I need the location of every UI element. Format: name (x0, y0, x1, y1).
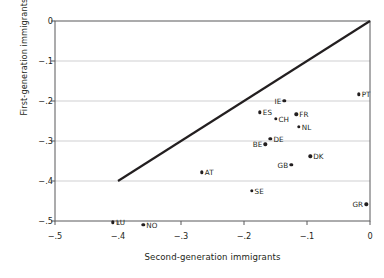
data-point[interactable] (283, 99, 286, 102)
data-point-label: LU (116, 218, 125, 227)
data-point[interactable] (365, 202, 368, 205)
data-point-label: GB (278, 161, 289, 170)
data-point-label: GR (352, 200, 363, 209)
data-point-label: SE (255, 187, 264, 196)
data-point[interactable] (295, 112, 298, 115)
data-point[interactable] (274, 117, 277, 120)
data-point[interactable] (357, 92, 360, 95)
data-point[interactable] (200, 170, 203, 173)
x-axis-title: Second-generation immigrants (55, 252, 370, 262)
data-point[interactable] (269, 137, 272, 140)
data-point[interactable] (258, 110, 261, 113)
data-point[interactable] (250, 189, 253, 192)
data-point-label: BE (253, 140, 263, 149)
data-point-label: AT (205, 168, 214, 177)
data-point-label: DE (273, 135, 283, 144)
y-axis-title: First-generation immigrants (19, 0, 29, 137)
data-point[interactable] (308, 154, 311, 157)
data-point-label: ES (263, 108, 272, 117)
data-point[interactable] (264, 142, 267, 145)
data-point-label: NL (302, 123, 312, 132)
data-point-label: PT (362, 90, 371, 99)
data-point-label: FR (299, 110, 308, 119)
data-point-label: DK (313, 152, 323, 161)
data-point[interactable] (141, 223, 144, 226)
data-point-label: CH (279, 115, 290, 124)
data-points-layer: PTIEESFRCHNLDEBEDKGBATSEGRLUNO (0, 0, 384, 278)
data-point[interactable] (290, 163, 293, 166)
scatter-plot-figure: 0−.1−.2−.3−.4−.5 −.5−.4−.3−.2−.10 PTIEES… (0, 0, 384, 278)
data-point-label: IE (274, 97, 281, 106)
data-point-label: NO (146, 221, 157, 230)
data-point[interactable] (297, 125, 300, 128)
data-point[interactable] (111, 220, 114, 223)
